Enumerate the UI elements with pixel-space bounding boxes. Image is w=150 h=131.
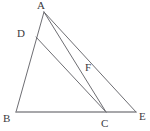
geometry-figure: A D F B C E [0,0,150,131]
segment-DC [36,37,106,112]
vertex-label-D: D [17,28,25,39]
vertex-label-E: E [139,111,146,122]
figure-canvas [0,0,150,131]
vertex-label-C: C [101,118,108,129]
vertex-label-A: A [37,0,45,11]
vertex-label-B: B [3,113,10,124]
segment-AC [44,12,106,112]
vertex-label-F: F [85,62,91,73]
